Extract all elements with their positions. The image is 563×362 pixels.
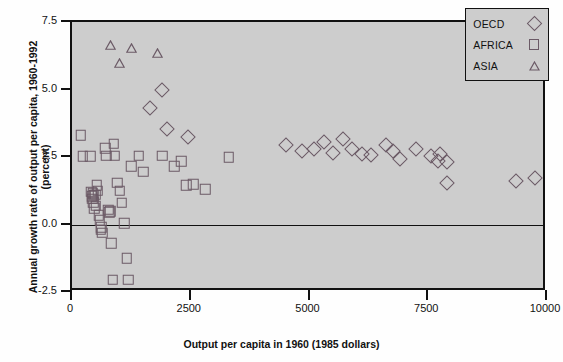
y-tick-label: -2.5	[0, 284, 57, 296]
data-point-africa	[117, 198, 128, 209]
x-tick-label: 5000	[295, 302, 319, 314]
y-tick-label: 0.0	[0, 217, 57, 229]
triangle-icon	[527, 59, 541, 73]
y-tick	[61, 155, 70, 157]
legend-item-africa: AFRICA	[473, 34, 541, 55]
data-point-africa	[105, 206, 116, 217]
y-tick-label: 2.5	[0, 149, 57, 161]
y-tick	[61, 290, 70, 292]
y-tick-label: 7.5	[0, 14, 57, 26]
data-point-africa	[97, 227, 108, 238]
data-point-oecd	[508, 174, 524, 190]
data-point-oecd	[439, 175, 455, 191]
data-point-africa	[119, 218, 130, 229]
legend-label-oecd: OECD	[473, 18, 504, 30]
zero-reference-line	[72, 225, 543, 226]
scatter-plot-figure: Annual growth rate of output per capita,…	[0, 0, 563, 362]
data-point-oecd	[278, 137, 294, 153]
data-point-asia	[115, 63, 125, 72]
data-point-asia	[126, 48, 136, 57]
data-point-africa	[138, 167, 149, 178]
y-tick	[61, 88, 70, 90]
data-point-asia	[106, 45, 116, 54]
data-point-africa	[106, 238, 117, 249]
data-point-africa	[133, 150, 144, 161]
legend-item-asia: ASIA	[473, 55, 541, 76]
y-axis-label: Annual growth rate of output per capita,…	[27, 17, 51, 317]
data-point-africa	[121, 253, 132, 264]
data-point-oecd	[143, 101, 159, 117]
x-tick-label: 0	[67, 302, 73, 314]
data-point-africa	[75, 130, 86, 141]
data-point-africa	[176, 156, 187, 167]
data-point-oecd	[325, 145, 341, 161]
diamond-icon	[527, 17, 541, 31]
x-tick	[545, 290, 547, 300]
data-point-africa	[92, 186, 103, 197]
y-tick	[61, 223, 70, 225]
y-tick-label: 5.0	[0, 82, 57, 94]
x-axis-label: Output per capita in 1960 (1985 dollars)	[0, 338, 563, 350]
data-point-africa	[224, 152, 235, 163]
legend: OECD AFRICA ASIA	[465, 8, 549, 81]
x-tick	[426, 290, 428, 300]
data-point-africa	[188, 179, 199, 190]
data-point-oecd	[154, 82, 170, 98]
x-tick	[189, 290, 191, 300]
x-tick-label: 7500	[414, 302, 438, 314]
data-point-africa	[85, 151, 96, 162]
y-tick	[61, 20, 70, 22]
data-point-africa	[200, 184, 211, 195]
data-point-oecd	[181, 129, 197, 145]
data-point-oecd	[409, 142, 425, 158]
data-point-africa	[123, 275, 134, 286]
legend-label-asia: ASIA	[473, 60, 498, 72]
x-tick-label: 2500	[177, 302, 201, 314]
data-point-africa	[114, 186, 125, 197]
data-point-africa	[108, 275, 119, 286]
x-tick	[308, 290, 310, 300]
square-icon	[527, 38, 541, 52]
data-point-africa	[109, 138, 120, 149]
data-point-africa	[110, 150, 121, 161]
x-tick-label: 10000	[530, 302, 561, 314]
legend-label-africa: AFRICA	[473, 39, 513, 51]
legend-item-oecd: OECD	[473, 13, 541, 34]
data-point-africa	[126, 161, 137, 172]
data-point-oecd	[159, 121, 175, 137]
data-point-oecd	[527, 170, 543, 186]
x-tick	[70, 290, 72, 300]
data-point-africa	[157, 150, 168, 161]
data-point-asia	[153, 53, 163, 62]
